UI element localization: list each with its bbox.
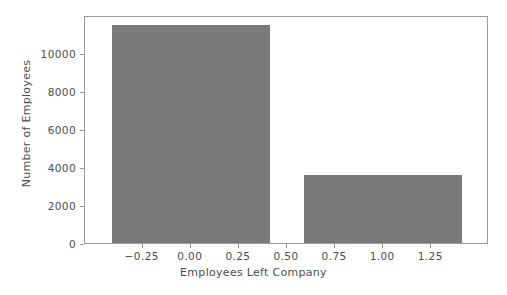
figure-canvas: Employees Left Company Number of Employe…: [0, 0, 507, 295]
x-tick-label: 0.00: [177, 250, 202, 262]
x-tick-label: 1.00: [370, 250, 395, 262]
x-tick-mark: [142, 244, 143, 248]
y-axis-label: Number of Employees: [20, 44, 33, 204]
bar: [304, 175, 462, 243]
x-axis-label: Employees Left Company: [0, 266, 507, 279]
x-tick-mark: [382, 244, 383, 248]
y-tick-mark: [80, 244, 84, 245]
x-tick-mark: [334, 244, 335, 248]
x-tick-label: 0.50: [274, 250, 299, 262]
x-tick-mark: [190, 244, 191, 248]
x-tick-mark: [286, 244, 287, 248]
y-tick-mark: [80, 130, 84, 131]
x-tick-label: −0.25: [125, 250, 159, 262]
x-tick-label: 0.25: [225, 250, 250, 262]
y-tick-label: 6000: [48, 124, 76, 136]
y-tick-mark: [80, 92, 84, 93]
plot-area: [84, 16, 488, 244]
x-tick-mark: [238, 244, 239, 248]
y-tick-label: 4000: [48, 162, 76, 174]
y-tick-label: 10000: [41, 48, 76, 60]
x-tick-mark: [430, 244, 431, 248]
y-tick-label: 0: [69, 238, 76, 250]
bar: [112, 25, 270, 243]
y-tick-label: 8000: [48, 86, 76, 98]
x-tick-label: 1.25: [418, 250, 443, 262]
x-tick-label: 0.75: [322, 250, 347, 262]
y-tick-mark: [80, 206, 84, 207]
y-tick-label: 2000: [48, 200, 76, 212]
y-tick-mark: [80, 168, 84, 169]
y-tick-mark: [80, 54, 84, 55]
